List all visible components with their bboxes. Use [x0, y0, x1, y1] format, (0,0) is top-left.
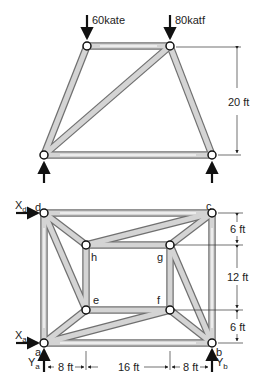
node-label-f: f	[157, 294, 161, 306]
node-label-e: e	[93, 294, 99, 306]
reaction-label-ya: Ya	[28, 356, 40, 371]
reaction-label-xa: Xa	[15, 329, 27, 344]
top-truss-members	[44, 46, 212, 155]
node-f	[166, 306, 174, 314]
node-top-left	[83, 42, 91, 50]
load-label-80: 80katf	[175, 14, 206, 26]
vertical-dim-top: 6 ft	[230, 223, 245, 235]
node-bottom-left	[40, 151, 48, 159]
node-label-b: b	[216, 346, 222, 358]
node-d	[40, 209, 48, 217]
node-label-g: g	[157, 251, 163, 263]
node-label-a: a	[35, 346, 42, 358]
bottom-truss: Xd Xa Ya Yb d c h g e f a b 6 ft 12 ft 6…	[15, 199, 248, 373]
node-a	[40, 339, 48, 347]
node-top-right	[166, 42, 174, 50]
vertical-dim-middle: 12 ft	[227, 271, 248, 283]
horizontal-dim-middle: 16 ft	[118, 361, 139, 373]
reaction-label-yb: Yb	[216, 356, 228, 371]
height-dimension-label: 20 ft	[228, 96, 249, 108]
node-label-h: h	[91, 251, 97, 263]
node-b	[208, 339, 216, 347]
node-g	[166, 241, 174, 249]
horizontal-dim-left: 8 ft	[58, 361, 73, 373]
horizontal-dim-right: 8 ft	[183, 361, 198, 373]
load-label-60: 60kate	[92, 14, 125, 26]
reaction-label-xd: Xd	[15, 199, 27, 214]
node-e	[82, 306, 90, 314]
node-c	[208, 209, 216, 217]
node-h	[82, 241, 90, 249]
vertical-dim-bottom: 6 ft	[230, 321, 245, 333]
top-truss: 60kate 80katf 20 ft	[40, 14, 249, 183]
node-bottom-right	[208, 151, 216, 159]
